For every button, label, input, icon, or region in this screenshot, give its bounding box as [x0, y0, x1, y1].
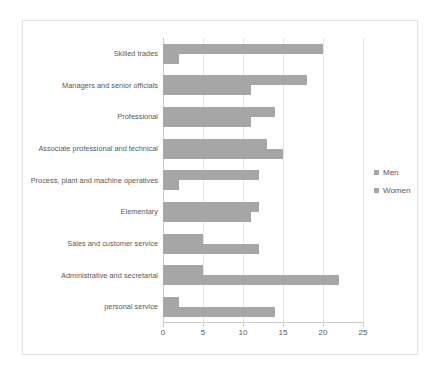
bar-women[interactable] [163, 85, 251, 95]
axis-tick-label: 15 [279, 328, 288, 337]
bar-women[interactable] [163, 275, 339, 285]
bar-men[interactable] [163, 139, 267, 149]
category-label: Skilled trades [114, 49, 158, 58]
bar-group [163, 291, 363, 323]
bar-women[interactable] [163, 54, 179, 64]
legend-label: Men [383, 168, 399, 177]
axis-tick [323, 323, 324, 327]
category-label: Process, plant and machine operatives [31, 176, 158, 185]
legend-item[interactable]: Women [374, 186, 434, 195]
bar-men[interactable] [163, 107, 275, 117]
bar-group [163, 101, 363, 133]
axis-tick [283, 323, 284, 327]
axis-tick [163, 323, 164, 327]
bar-men[interactable] [163, 202, 259, 212]
bar-men[interactable] [163, 234, 203, 244]
axis-tick-label: 5 [201, 328, 205, 337]
category-label: Managers and senior officials [62, 81, 158, 90]
bar-women[interactable] [163, 307, 275, 317]
chart-legend: Men Women [374, 168, 434, 204]
bar-group [163, 228, 363, 260]
plot-area [163, 38, 363, 323]
value-axis: 0510152025 [163, 323, 363, 347]
category-label: Associate professional and technical [38, 144, 158, 153]
gridline [363, 38, 364, 323]
category-label: Sales and customer service [67, 239, 158, 248]
bar-men[interactable] [163, 44, 323, 54]
chart-container: Skilled tradesManagers and senior offici… [0, 0, 443, 376]
axis-tick-label: 25 [359, 328, 368, 337]
category-label: Elementary [121, 207, 158, 216]
legend-label: Women [383, 186, 410, 195]
bar-women[interactable] [163, 212, 251, 222]
bar-group [163, 165, 363, 197]
category-axis-labels: Skilled tradesManagers and senior offici… [24, 28, 158, 328]
bar-women[interactable] [163, 180, 179, 190]
bar-group [163, 133, 363, 165]
bar-group [163, 260, 363, 292]
axis-tick-label: 0 [161, 328, 165, 337]
category-label: Administrative and secretarial [61, 271, 158, 280]
bar-men[interactable] [163, 265, 203, 275]
bar-group [163, 38, 363, 70]
legend-swatch-icon [374, 188, 379, 193]
axis-tick [243, 323, 244, 327]
bar-men[interactable] [163, 297, 179, 307]
bar-group [163, 70, 363, 102]
bar-women[interactable] [163, 244, 259, 254]
legend-swatch-icon [374, 170, 379, 175]
axis-tick [363, 323, 364, 327]
axis-tick-label: 10 [239, 328, 248, 337]
bar-men[interactable] [163, 75, 307, 85]
legend-item[interactable]: Men [374, 168, 434, 177]
category-label: personal service [104, 302, 158, 311]
axis-tick-label: 20 [319, 328, 328, 337]
axis-tick [203, 323, 204, 327]
bar-men[interactable] [163, 170, 259, 180]
bar-women[interactable] [163, 149, 283, 159]
category-label: Professional [117, 112, 158, 121]
bar-group [163, 196, 363, 228]
bar-women[interactable] [163, 117, 251, 127]
